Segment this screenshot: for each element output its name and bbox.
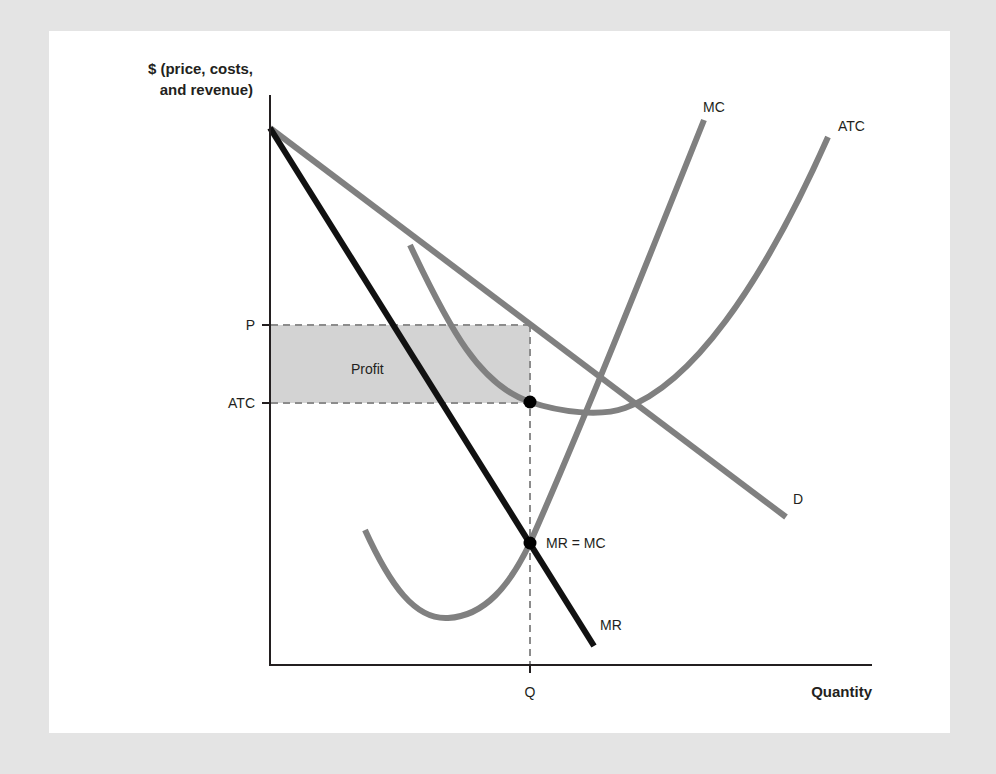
- tick-label-p: P: [246, 317, 255, 333]
- y-axis-title-line2: and revenue): [160, 81, 253, 98]
- demand-curve: [270, 128, 786, 517]
- label-profit: Profit: [351, 361, 384, 377]
- mr-equals-mc-point: [524, 537, 537, 550]
- monopoly-profit-chart: $ (price, costs, and revenue) Quantity P…: [0, 0, 996, 774]
- label-d: D: [793, 491, 803, 507]
- label-mr-equals-mc: MR = MC: [546, 535, 606, 551]
- tick-label-atc: ATC: [228, 395, 255, 411]
- atc-at-q-point: [524, 396, 537, 409]
- y-axis-title-line1: $ (price, costs,: [148, 60, 253, 77]
- label-atc: ATC: [838, 118, 865, 134]
- x-axis-title: Quantity: [811, 683, 872, 700]
- label-mc: MC: [703, 99, 725, 115]
- label-mr: MR: [600, 617, 622, 633]
- tick-label-q: Q: [525, 684, 536, 700]
